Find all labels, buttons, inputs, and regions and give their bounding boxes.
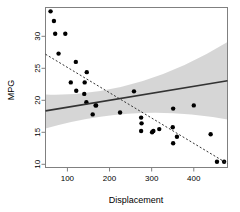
x-axis-tick-label: 400	[187, 174, 201, 183]
data-point	[85, 70, 89, 74]
data-point	[215, 160, 219, 164]
data-point	[139, 115, 143, 119]
data-point	[74, 89, 78, 93]
scatter-plot: 100200300400 1015202530 Displacement MPG	[0, 0, 240, 212]
data-point	[139, 121, 143, 125]
data-point	[139, 129, 143, 133]
x-axis-tick-label: 300	[145, 174, 159, 183]
data-point	[132, 89, 136, 93]
data-point	[69, 80, 73, 84]
y-axis-ticks-group: 1015202530	[33, 31, 46, 168]
y-axis-tick-label: 25	[33, 63, 42, 72]
y-axis-tick-label: 30	[33, 31, 42, 40]
x-axis-tick-label: 100	[61, 174, 75, 183]
data-point	[157, 127, 161, 131]
data-point	[192, 103, 196, 107]
y-axis-tick-label: 10	[33, 159, 42, 168]
x-axis-title: Displacement	[109, 195, 164, 205]
data-point	[56, 51, 60, 55]
data-point	[63, 32, 67, 36]
data-point	[118, 110, 122, 114]
data-point	[171, 125, 175, 129]
data-point	[74, 60, 78, 64]
y-axis-title: MPG	[6, 80, 16, 101]
data-point	[171, 141, 175, 145]
data-point	[208, 132, 212, 136]
data-point	[94, 103, 98, 107]
data-point	[52, 19, 56, 23]
data-point	[82, 80, 86, 84]
y-axis-tick-label: 20	[33, 95, 42, 104]
data-point	[53, 32, 57, 36]
chart-container: 100200300400 1015202530 Displacement MPG	[0, 0, 240, 212]
data-point	[150, 130, 154, 134]
x-axis-tick-label: 200	[103, 174, 117, 183]
x-axis-ticks-group: 100200300400	[61, 168, 201, 183]
data-point	[48, 9, 52, 13]
data-point	[90, 112, 94, 116]
data-point	[82, 92, 86, 96]
data-point	[175, 135, 179, 139]
y-axis-tick-label: 15	[33, 127, 42, 136]
data-point	[171, 106, 175, 110]
